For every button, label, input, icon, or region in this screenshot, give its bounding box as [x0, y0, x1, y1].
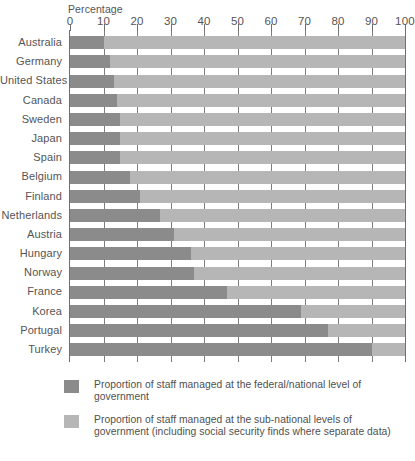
plot-right-axis [405, 30, 406, 362]
bar-segment-federal [70, 75, 114, 88]
legend-label: Proportion of staff managed at the feder… [94, 379, 409, 404]
bar-segment-sub-national [120, 151, 405, 164]
bar-segment-federal [70, 267, 194, 280]
bar-segment-federal [70, 94, 117, 107]
bar-segment-sub-national [372, 343, 406, 356]
x-axis-title: Percentage [68, 3, 123, 15]
bar-segment-federal [70, 36, 104, 49]
bar-segment-sub-national [117, 94, 405, 107]
bar-row [70, 267, 405, 280]
bar-segment-sub-national [194, 267, 405, 280]
bar-row [70, 286, 405, 299]
x-tick-mark-0 [70, 24, 71, 31]
bar-row [70, 190, 405, 203]
bar-row [70, 343, 405, 356]
y-label-france: France [0, 282, 66, 301]
bar-segment-sub-national [174, 228, 405, 241]
bar-row [70, 209, 405, 222]
legend-item: Proportion of staff managed at the feder… [64, 379, 409, 404]
x-tick-mark-20 [137, 24, 138, 31]
y-label-korea: Korea [0, 302, 66, 321]
x-tick-mark-30 [171, 24, 172, 31]
x-axis-tick-labels: 0102030405060708090100 [0, 15, 415, 31]
x-tick-mark-70 [305, 24, 306, 31]
legend-swatch-sub-national [64, 415, 79, 428]
bar-segment-sub-national [227, 286, 405, 299]
y-label-turkey: Turkey [0, 340, 66, 359]
bar-row [70, 75, 405, 88]
bar-segment-federal [70, 55, 110, 68]
bar-segment-sub-national [120, 132, 405, 145]
bar-segment-federal [70, 132, 120, 145]
y-label-japan: Japan [0, 129, 66, 148]
legend-item: Proportion of staff managed at the sub-n… [64, 414, 409, 439]
bar-row [70, 36, 405, 49]
bar-segment-federal [70, 343, 372, 356]
y-label-norway: Norway [0, 263, 66, 282]
bar-segment-federal [70, 324, 328, 337]
bar-row [70, 324, 405, 337]
y-label-portugal: Portugal [0, 321, 66, 340]
bar-row [70, 171, 405, 184]
bar-segment-sub-national [114, 75, 405, 88]
y-label-australia: Australia [0, 33, 66, 52]
bar-segment-sub-national [140, 190, 405, 203]
bar-segment-federal [70, 171, 130, 184]
y-label-sweden: Sweden [0, 110, 66, 129]
bar-segment-federal [70, 113, 120, 126]
bar-row [70, 55, 405, 68]
bar-segment-federal [70, 190, 140, 203]
bar-segment-sub-national [104, 36, 406, 49]
bar-row [70, 247, 405, 260]
x-tick-mark-50 [238, 24, 239, 31]
legend-label: Proportion of staff managed at the sub-n… [94, 414, 409, 439]
bar-segment-sub-national [160, 209, 405, 222]
bar-segment-sub-national [110, 55, 405, 68]
y-label-canada: Canada [0, 91, 66, 110]
bar-row [70, 151, 405, 164]
x-tick-mark-100 [405, 24, 406, 31]
bar-segment-federal [70, 247, 191, 260]
bar-row [70, 132, 405, 145]
plot-area [70, 33, 405, 359]
y-label-spain: Spain [0, 148, 66, 167]
y-label-united-states: United States [0, 71, 66, 90]
bar-segment-federal [70, 305, 301, 318]
bar-segment-sub-national [301, 305, 405, 318]
bar-segment-sub-national [191, 247, 405, 260]
y-label-finland: Finland [0, 187, 66, 206]
x-tick-mark-60 [271, 24, 272, 31]
y-label-netherlands: Netherlands [0, 206, 66, 225]
chart-container: Percentage 0102030405060708090100 Austra… [0, 0, 415, 461]
x-tick-mark-80 [338, 24, 339, 31]
x-tick-mark-40 [204, 24, 205, 31]
y-axis-category-labels: AustraliaGermanyUnited StatesCanadaSwede… [0, 33, 66, 359]
y-label-belgium: Belgium [0, 167, 66, 186]
bar-segment-federal [70, 209, 160, 222]
bar-segment-federal [70, 228, 174, 241]
bar-segment-federal [70, 286, 227, 299]
x-tick-mark-10 [104, 24, 105, 31]
y-label-germany: Germany [0, 52, 66, 71]
bar-row [70, 113, 405, 126]
bar-row [70, 94, 405, 107]
y-label-austria: Austria [0, 225, 66, 244]
bar-row [70, 228, 405, 241]
bar-segment-sub-national [120, 113, 405, 126]
bar-segment-sub-national [328, 324, 405, 337]
y-label-hungary: Hungary [0, 244, 66, 263]
x-tick-mark-90 [372, 24, 373, 31]
chart-legend: Proportion of staff managed at the feder… [64, 379, 409, 449]
bar-segment-federal [70, 151, 120, 164]
bar-rows [70, 33, 405, 359]
legend-swatch-federal [64, 380, 79, 393]
bar-row [70, 305, 405, 318]
bar-segment-sub-national [130, 171, 405, 184]
